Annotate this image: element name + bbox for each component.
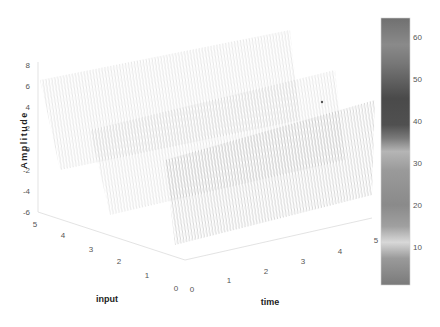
x-axis-ticks: 0 1 2 3 4 5 xyxy=(190,236,379,294)
svg-text:2: 2 xyxy=(264,267,269,276)
svg-text:2: 2 xyxy=(117,257,122,266)
svg-text:1: 1 xyxy=(145,271,150,280)
svg-text:4: 4 xyxy=(338,247,343,256)
svg-text:0: 0 xyxy=(190,285,195,294)
surface-plot: 8 6 4 2 0 -2 -4 -6 Amplitude 5 4 3 2 1 0… xyxy=(0,0,440,327)
y-axis-label: input xyxy=(96,294,118,304)
svg-text:0: 0 xyxy=(174,284,179,293)
x-axis-label: time xyxy=(261,297,280,307)
svg-text:1: 1 xyxy=(227,276,232,285)
svg-text:4: 4 xyxy=(26,103,31,112)
colorbar: 60 50 40 30 20 10 xyxy=(381,18,422,285)
svg-text:3: 3 xyxy=(301,257,306,266)
svg-text:4: 4 xyxy=(61,231,66,240)
y-axis-ticks: 5 4 3 2 1 0 xyxy=(33,220,179,293)
svg-text:6: 6 xyxy=(26,82,31,91)
svg-text:50: 50 xyxy=(413,75,422,84)
svg-text:20: 20 xyxy=(413,201,422,210)
marker-point xyxy=(321,101,323,103)
svg-text:-6: -6 xyxy=(23,208,31,217)
svg-text:30: 30 xyxy=(413,159,422,168)
svg-text:5: 5 xyxy=(33,220,38,229)
svg-text:8: 8 xyxy=(26,61,31,70)
svg-text:5: 5 xyxy=(374,236,379,245)
svg-text:3: 3 xyxy=(89,245,94,254)
svg-text:-4: -4 xyxy=(23,187,31,196)
svg-text:10: 10 xyxy=(413,243,422,252)
surface-ribbons xyxy=(40,30,375,245)
svg-text:40: 40 xyxy=(413,117,422,126)
z-axis-label: Amplitude xyxy=(19,111,29,169)
svg-text:60: 60 xyxy=(413,33,422,42)
